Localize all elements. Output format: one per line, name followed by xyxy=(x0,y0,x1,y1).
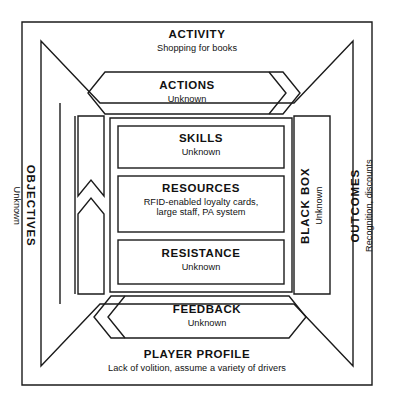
outcomes-subtitle: Recognition, discounts xyxy=(364,126,375,286)
outcomes-label: OUTCOMES Recognition, discounts xyxy=(349,126,374,286)
activity-system-diagram: ACTIVITY Shopping for books ACTIONS Unkn… xyxy=(0,0,394,413)
actions-arrowhead-notch xyxy=(269,72,286,114)
actions-band-outline xyxy=(88,72,300,114)
objectives-label: OBJECTIVES Unknown xyxy=(11,126,36,286)
left-chevron-band-outline xyxy=(78,116,104,196)
objectives-subtitle: Unknown xyxy=(11,126,22,286)
diagram-frame-lines xyxy=(0,0,394,413)
left-chevron-band-lower xyxy=(78,198,104,294)
objectives-title: OBJECTIVES xyxy=(23,126,37,286)
resistance-box-outline xyxy=(118,240,284,284)
feedback-band-outline xyxy=(94,296,306,338)
resources-box-outline xyxy=(118,176,284,232)
black-box-title: BLACK BOX xyxy=(299,126,313,286)
inner-content-container xyxy=(110,118,292,292)
black-box-label: BLACK BOX Unknown xyxy=(299,126,324,286)
outcomes-title: OUTCOMES xyxy=(349,126,363,286)
black-box-subtitle: Unknown xyxy=(314,126,325,286)
feedback-arrowhead-notch xyxy=(108,296,125,338)
skills-box-outline xyxy=(118,126,284,168)
